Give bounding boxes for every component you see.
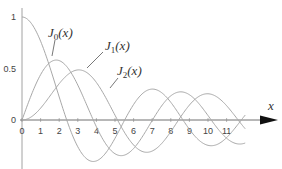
y-tick-label: 0 <box>11 115 16 125</box>
j2-label: J2(x) <box>117 63 142 80</box>
curve-j2 <box>22 70 245 152</box>
j0-leader-line <box>52 40 55 56</box>
j2-leader-line <box>110 78 118 88</box>
j1-leader-line <box>87 52 103 68</box>
x-tick-label: 2 <box>57 126 62 136</box>
bessel-chart: 0123456789101110.50 J0(x) J1(x) J2(x) x <box>0 0 282 169</box>
x-tick-label: 10 <box>203 126 213 136</box>
x-tick-label: 6 <box>131 126 136 136</box>
curve-labels: J0(x) J1(x) J2(x) x <box>48 25 274 113</box>
y-tick-label: 1 <box>11 12 16 22</box>
j0-label: J0(x) <box>48 25 73 42</box>
x-tick-label: 0 <box>19 126 24 136</box>
x-tick-label: 1 <box>38 126 43 136</box>
y-tick-label: 0.5 <box>3 64 16 74</box>
x-tick-label: 3 <box>75 126 80 136</box>
x-axis-arrow-icon <box>260 116 278 125</box>
x-tick-label: 7 <box>150 126 155 136</box>
j1-label: J1(x) <box>105 38 130 55</box>
x-axis-label: x <box>267 98 274 113</box>
